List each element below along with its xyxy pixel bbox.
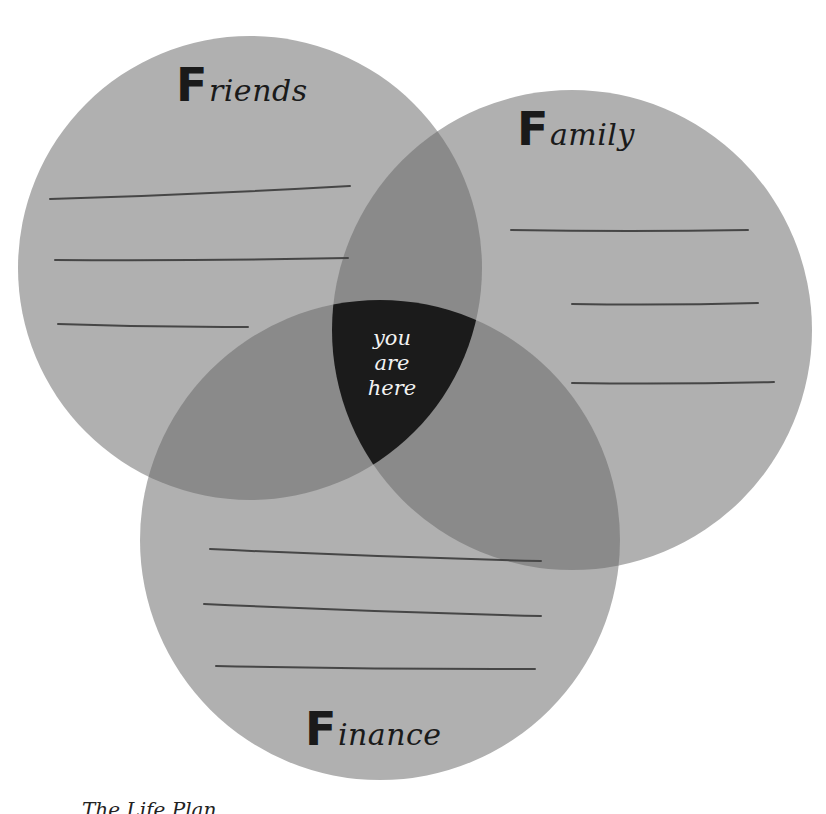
friends-label-rest: riends <box>209 73 308 108</box>
center-word-3: here <box>352 376 432 401</box>
footer-handwriting: The Life Plan <box>82 800 216 814</box>
finance-label: Finance <box>305 702 442 756</box>
friends-label-initial: F <box>176 58 208 112</box>
finance-label-initial: F <box>305 702 337 756</box>
you-are-here-label: you are here <box>352 326 432 401</box>
finance-label-rest: inance <box>338 717 442 752</box>
writing-line <box>511 230 748 231</box>
family-label-rest: amily <box>550 117 635 152</box>
family-label-initial: F <box>517 102 549 156</box>
friends-label: Friends <box>176 58 308 112</box>
venn-diagram <box>0 0 826 814</box>
family-label: Family <box>517 102 635 156</box>
center-word-1: you <box>352 326 432 351</box>
center-word-2: are <box>352 351 432 376</box>
